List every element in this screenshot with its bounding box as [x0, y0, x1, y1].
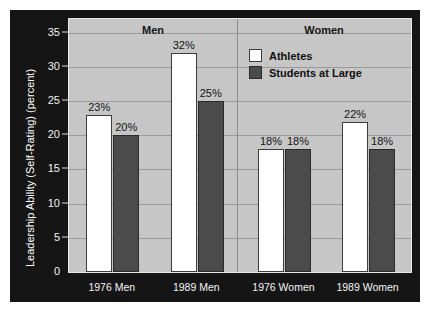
bar-athletes-1 — [86, 115, 112, 272]
x-axis-label-2: 1989 Men — [151, 281, 241, 293]
bar-students-4 — [369, 149, 395, 272]
bar-value-label: 18% — [280, 135, 316, 147]
bar-value-label: 23% — [81, 101, 117, 113]
bar-value-label: 18% — [364, 135, 400, 147]
y-axis-tick-label: 5 — [26, 231, 60, 243]
legend-label-athletes: Athletes — [269, 50, 312, 62]
legend-item-students: Students at Large — [249, 66, 362, 79]
y-axis-tick-label: 30 — [26, 60, 60, 72]
y-axis-tick-label: 20 — [26, 128, 60, 140]
chart-legend: Athletes Students at Large — [249, 49, 362, 79]
bar-athletes-3 — [258, 149, 284, 272]
bar-students-3 — [285, 149, 311, 272]
y-axis-tick-label: 35 — [26, 26, 60, 38]
legend-swatch-athletes — [249, 49, 262, 62]
bar-value-label: 22% — [337, 108, 373, 120]
x-axis-label-3: 1976 Women — [238, 281, 328, 293]
x-axis-label-4: 1989 Women — [323, 281, 413, 293]
y-axis-tick-label: 25 — [26, 94, 60, 106]
group-header-women: Women — [237, 19, 411, 41]
legend-item-athletes: Athletes — [249, 49, 362, 62]
bar-value-label: 32% — [166, 39, 202, 51]
bar-students-1 — [113, 135, 139, 272]
bar-value-label: 20% — [108, 121, 144, 133]
y-axis-tick-label: 0 — [26, 265, 60, 277]
legend-swatch-students — [249, 66, 262, 79]
group-header-men: Men — [69, 19, 237, 41]
y-axis-tick-label: 10 — [26, 197, 60, 209]
legend-label-students: Students at Large — [269, 67, 362, 79]
y-axis-tick-label: 15 — [26, 162, 60, 174]
chart-container: Leadership Ability (Self-Rating) (percen… — [0, 0, 430, 322]
x-axis-label-1: 1976 Men — [67, 281, 157, 293]
gridline — [69, 101, 411, 102]
chart-panel: Leadership Ability (Self-Rating) (percen… — [10, 10, 420, 302]
group-divider — [237, 19, 238, 272]
bar-value-label: 25% — [193, 87, 229, 99]
bar-students-2 — [198, 101, 224, 272]
plot-area: Men Women 23%20%32%25%18%18%22%18% Athle… — [68, 18, 412, 273]
bar-athletes-2 — [171, 53, 197, 272]
